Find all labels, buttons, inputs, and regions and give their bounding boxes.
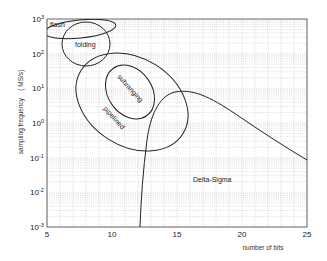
y-axis-label: sampling frequency ( MS/s) xyxy=(17,70,25,155)
x-tick: 10 xyxy=(108,230,117,239)
grid xyxy=(47,19,307,227)
label-delta-sigma: Delta-Sigma xyxy=(193,176,232,184)
x-tick: 5 xyxy=(45,230,50,239)
label-folding: folding xyxy=(75,41,96,49)
x-tick: 15 xyxy=(173,230,182,239)
x-axis-label: number of bits xyxy=(242,244,284,251)
x-tick: 20 xyxy=(238,230,247,239)
label-flash: flash xyxy=(50,21,65,28)
chart: flash folding subranging pipelined Delta… xyxy=(0,0,327,261)
x-tick: 25 xyxy=(303,230,312,239)
